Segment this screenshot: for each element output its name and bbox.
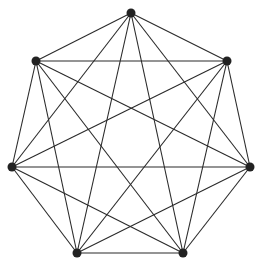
node-v0 <box>127 9 136 18</box>
edge-v1-v5 <box>12 61 227 167</box>
edge-v1-v2 <box>227 61 250 167</box>
edge-v0-v2 <box>131 13 250 167</box>
edge-v3-v6 <box>36 61 183 253</box>
edge-v2-v4 <box>77 167 250 253</box>
edge-v0-v4 <box>77 13 131 253</box>
edge-v2-v6 <box>36 61 250 167</box>
node-v1 <box>223 57 232 66</box>
edge-v0-v6 <box>36 13 131 61</box>
edges <box>12 13 250 253</box>
nodes <box>8 9 255 258</box>
edge-v4-v5 <box>12 167 77 253</box>
node-v5 <box>8 163 17 172</box>
node-v4 <box>73 249 82 258</box>
node-v3 <box>179 249 188 258</box>
edge-v4-v6 <box>36 61 77 253</box>
node-v6 <box>32 57 41 66</box>
complete-graph-diagram <box>0 0 262 266</box>
edge-v0-v3 <box>131 13 183 253</box>
edge-v0-v1 <box>131 13 227 61</box>
edge-v3-v5 <box>12 167 183 253</box>
node-v2 <box>246 163 255 172</box>
